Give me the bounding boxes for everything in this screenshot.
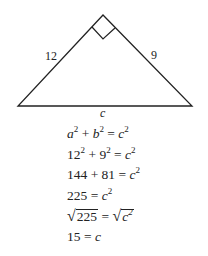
equation-line: 15 = c: [67, 227, 140, 248]
equation-line: 122 + 92 = c2: [67, 145, 140, 166]
equation-line: 144 + 81 = c2: [67, 165, 140, 186]
side-label-left: 12: [45, 50, 57, 62]
equation-line: a2 + b2 = c2: [67, 124, 140, 145]
right-triangle: [0, 0, 208, 110]
equation-line: 225 = c2: [67, 186, 140, 207]
equation-steps: a2 + b2 = c2122 + 92 = c2144 + 81 = c222…: [67, 124, 140, 247]
right-angle-marker: [92, 27, 115, 39]
side-label-base: c: [100, 107, 105, 119]
equation-line: √225 = √c2: [67, 206, 140, 227]
side-label-right: 9: [151, 49, 157, 61]
